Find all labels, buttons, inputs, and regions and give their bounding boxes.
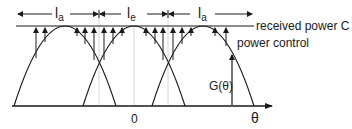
interval-label-left: la [55,6,64,23]
interval-label-center: le [127,6,136,23]
theta-axis-label: θ [251,111,259,125]
power-control-label: power control [237,37,309,49]
origin-label: 0 [131,113,138,125]
received-power-label: received power C [256,20,349,32]
power-control-arrows [36,28,226,60]
interval-label-right: la [198,6,207,23]
gain-label: G(θ) [209,80,233,92]
